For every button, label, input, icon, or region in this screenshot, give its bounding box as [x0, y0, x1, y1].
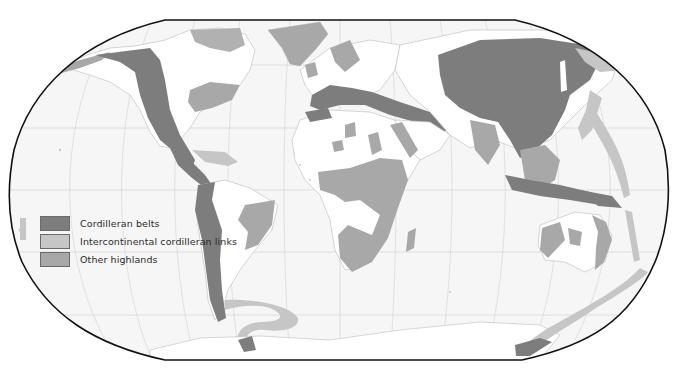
swatch-intercontinental-links [40, 234, 70, 249]
legend: Cordilleran belts Intercontinental cordi… [40, 214, 237, 268]
legend-label: Intercontinental cordilleran links [80, 236, 237, 247]
legend-label: Cordilleran belts [80, 218, 160, 229]
left-edge-strip [20, 218, 26, 240]
legend-item-other-highlands: Other highlands [40, 250, 237, 268]
legend-item-intercontinental-links: Intercontinental cordilleran links [40, 232, 237, 250]
swatch-cordilleran-belts [40, 216, 70, 231]
world-map [0, 0, 680, 372]
swatch-other-highlands [40, 252, 70, 267]
legend-item-cordilleran-belts: Cordilleran belts [40, 214, 237, 232]
legend-label: Other highlands [80, 254, 158, 265]
africa-highlands-3 [332, 140, 344, 152]
